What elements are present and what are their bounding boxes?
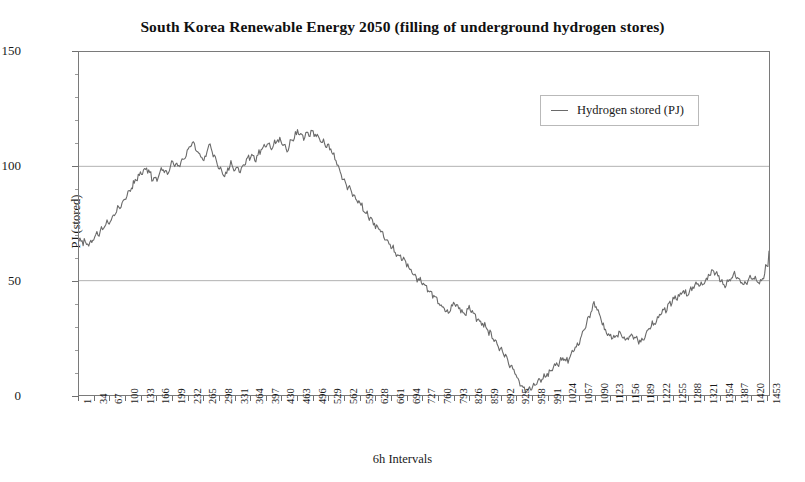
x-tick-label: 1420 xyxy=(755,383,766,404)
x-tick-label: 34 xyxy=(98,394,109,405)
x-tick-mark xyxy=(501,396,502,401)
y-tick-label: 50 xyxy=(0,273,21,289)
x-tick-label: 133 xyxy=(145,388,156,404)
x-tick-mark xyxy=(250,396,251,401)
x-tick-label: 1288 xyxy=(692,383,703,404)
x-tick-mark xyxy=(579,396,580,401)
x-tick-mark xyxy=(141,396,142,401)
x-tick-mark xyxy=(735,396,736,401)
x-tick-mark xyxy=(360,396,361,401)
x-tick-mark xyxy=(407,396,408,401)
x-tick-label: 166 xyxy=(160,388,171,404)
x-tick-mark xyxy=(297,396,298,401)
x-tick-mark xyxy=(720,396,721,401)
x-tick-mark xyxy=(375,396,376,401)
y-tick-mark xyxy=(72,166,78,167)
x-tick-mark xyxy=(673,396,674,401)
x-tick-mark xyxy=(188,396,189,401)
x-tick-label: 1123 xyxy=(614,383,625,404)
y-tick-mark xyxy=(72,281,78,282)
x-tick-label: 265 xyxy=(207,388,218,404)
x-tick-mark xyxy=(657,396,658,401)
x-tick-mark xyxy=(344,396,345,401)
y-minor-tick-mark xyxy=(75,74,78,75)
x-tick-label: 1 xyxy=(82,399,93,404)
y-tick-label: 100 xyxy=(0,158,21,174)
x-tick-label: 67 xyxy=(113,394,124,405)
x-axis-title: 6h Intervals xyxy=(0,452,805,467)
x-tick-label: 1321 xyxy=(708,383,719,404)
x-tick-mark xyxy=(109,396,110,401)
y-tick-label: 150 xyxy=(0,43,21,59)
x-tick-mark xyxy=(485,396,486,401)
x-tick-mark xyxy=(610,396,611,401)
series-line-hydrogen-stored xyxy=(79,130,769,393)
x-tick-mark xyxy=(219,396,220,401)
x-tick-label: 925 xyxy=(520,388,531,404)
legend-line-marker-icon xyxy=(551,110,568,111)
x-tick-mark xyxy=(156,396,157,401)
y-minor-tick-mark xyxy=(75,212,78,213)
x-tick-label: 1024 xyxy=(567,383,578,404)
x-tick-mark xyxy=(595,396,596,401)
x-tick-label: 232 xyxy=(192,388,203,404)
x-tick-label: 1354 xyxy=(724,383,735,404)
x-tick-mark xyxy=(328,396,329,401)
x-tick-label: 1189 xyxy=(645,383,656,404)
y-minor-tick-mark xyxy=(75,235,78,236)
x-tick-mark xyxy=(532,396,533,401)
x-tick-label: 958 xyxy=(536,388,547,404)
x-tick-mark xyxy=(94,396,95,401)
x-tick-label: 1090 xyxy=(599,383,610,404)
chart-title: South Korea Renewable Energy 2050 (filli… xyxy=(0,18,805,36)
y-minor-tick-mark xyxy=(75,304,78,305)
x-tick-label: 1387 xyxy=(739,383,750,404)
x-tick-mark xyxy=(454,396,455,401)
y-tick-mark xyxy=(72,51,78,52)
x-tick-mark xyxy=(767,396,768,401)
x-tick-label: 727 xyxy=(426,388,437,404)
y-minor-tick-mark xyxy=(75,327,78,328)
y-minor-tick-mark xyxy=(75,258,78,259)
x-tick-mark xyxy=(704,396,705,401)
x-tick-label: 529 xyxy=(332,388,343,404)
x-tick-mark xyxy=(563,396,564,401)
x-tick-label: 1453 xyxy=(771,383,782,404)
x-tick-mark xyxy=(281,396,282,401)
x-tick-label: 991 xyxy=(552,388,563,404)
y-minor-tick-mark xyxy=(75,120,78,121)
x-tick-label: 595 xyxy=(364,388,375,404)
x-tick-mark xyxy=(235,396,236,401)
x-tick-mark xyxy=(266,396,267,401)
y-minor-tick-mark xyxy=(75,189,78,190)
x-tick-label: 1255 xyxy=(677,383,688,404)
x-tick-mark xyxy=(422,396,423,401)
x-tick-mark xyxy=(172,396,173,401)
x-tick-label: 892 xyxy=(505,388,516,404)
x-tick-mark xyxy=(203,396,204,401)
x-tick-label: 562 xyxy=(348,388,359,404)
x-tick-label: 298 xyxy=(223,388,234,404)
x-tick-mark xyxy=(626,396,627,401)
x-tick-label: 463 xyxy=(301,388,312,404)
x-tick-mark xyxy=(313,396,314,401)
x-tick-label: 661 xyxy=(395,388,406,404)
x-tick-label: 1156 xyxy=(630,383,641,404)
x-tick-mark xyxy=(751,396,752,401)
x-tick-mark xyxy=(469,396,470,401)
x-tick-label: 1057 xyxy=(583,383,594,404)
chart-canvas: South Korea Renewable Energy 2050 (filli… xyxy=(0,0,805,482)
x-tick-mark xyxy=(688,396,689,401)
x-tick-label: 1222 xyxy=(661,383,672,404)
x-tick-label: 364 xyxy=(254,388,265,404)
x-tick-label: 826 xyxy=(473,388,484,404)
x-tick-label: 793 xyxy=(458,388,469,404)
x-tick-mark xyxy=(125,396,126,401)
x-tick-label: 100 xyxy=(129,388,140,404)
legend: Hydrogen stored (PJ) xyxy=(540,95,699,126)
x-tick-label: 694 xyxy=(411,388,422,404)
x-tick-label: 199 xyxy=(176,388,187,404)
y-minor-tick-mark xyxy=(75,350,78,351)
x-tick-label: 760 xyxy=(442,388,453,404)
x-tick-label: 496 xyxy=(317,388,328,404)
